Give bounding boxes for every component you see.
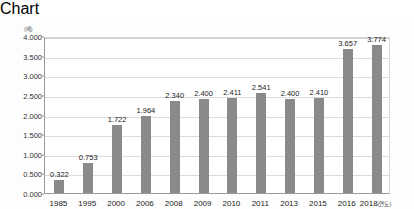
x-axis-tick-label: 2008	[165, 199, 183, 208]
x-axis-tick-label: 2009	[194, 199, 212, 208]
bar-slot	[189, 38, 218, 193]
bar-slot	[160, 38, 189, 193]
y-axis-unit-label: (배)	[24, 25, 33, 33]
bar-value-label: 0.753	[79, 153, 98, 162]
bar	[343, 49, 353, 193]
x-axis-tick-label: 2000	[107, 199, 125, 208]
x-axis-tick-label: 2010	[223, 199, 241, 208]
bar-value-label: 1.964	[137, 106, 156, 115]
y-axis-tick-label: 3.500	[0, 52, 42, 61]
bar-chart: (배) 4.0003.5003.0002.5002.0001.5001.0000…	[0, 18, 414, 209]
x-axis-tick-label: 2018(연도)	[360, 199, 391, 208]
y-axis-tick-label: 1.000	[0, 150, 42, 159]
bar-slot	[276, 38, 305, 193]
bar-slot	[132, 38, 161, 193]
bar-slot	[305, 38, 334, 193]
bar-value-label: 2.400	[281, 89, 300, 98]
y-axis-tick-label: 1.500	[0, 131, 42, 140]
bar-value-label: 2.541	[252, 83, 271, 92]
bar	[141, 116, 151, 193]
x-axis-tick-label: 1995	[78, 199, 96, 208]
x-axis-tick-label: 2011	[252, 199, 269, 208]
bar	[256, 93, 266, 193]
bar-value-label: 2.410	[310, 88, 329, 97]
bar-value-label: 1.722	[108, 115, 127, 124]
bar-value-label: 0.322	[50, 170, 69, 179]
bar	[112, 125, 122, 193]
bar-slot	[333, 38, 362, 193]
x-axis-tick-label: 2016	[338, 199, 356, 208]
bar-value-label: 2.400	[194, 89, 213, 98]
y-axis-tick-label: 0.000	[0, 190, 42, 199]
bar-slot	[362, 38, 391, 193]
y-axis-tick-label: 4.000	[0, 33, 42, 42]
bar	[372, 45, 382, 193]
x-axis-tick-label: 1985	[50, 199, 68, 208]
bar-value-label: 3.774	[367, 35, 386, 44]
x-axis-tick-label: 2013	[280, 199, 298, 208]
x-axis-tick-label: 2006	[136, 199, 154, 208]
y-axis-tick-label: 0.500	[0, 170, 42, 179]
bar-value-label: 2.411	[223, 88, 241, 97]
bar-slot	[74, 38, 103, 193]
bar	[54, 180, 64, 193]
y-axis-tick-label: 2.500	[0, 91, 42, 100]
x-axis-unit-label: (연도)	[378, 201, 392, 207]
plot-area: 0.3220.7531.7221.9642.3402.4002.4112.541…	[44, 37, 390, 194]
y-axis-tick-label: 2.000	[0, 111, 42, 120]
y-axis-tick-label: 3.000	[0, 72, 42, 81]
bar-slot	[247, 38, 276, 193]
bar-slot	[218, 38, 247, 193]
bar	[285, 99, 295, 193]
bar	[170, 101, 180, 193]
bar	[199, 99, 209, 193]
x-axis-tick-label: 2015	[309, 199, 327, 208]
bar	[227, 98, 237, 193]
bar-value-label: 2.340	[165, 91, 184, 100]
bar-value-label: 3.657	[338, 39, 357, 48]
bar	[314, 98, 324, 193]
bar	[83, 163, 93, 193]
